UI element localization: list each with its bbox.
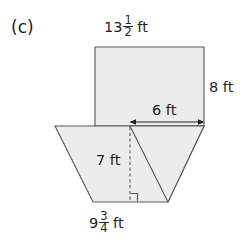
fraction-3-4: 3 4: [99, 211, 108, 236]
geometry-figure: (c) 13 1 2 ft 8 ft 6 ft 7 ft 9 3 4 ft: [0, 0, 247, 248]
mixed-number-9-and-3-4: 9 3 4 ft: [89, 211, 124, 236]
upper-base-segment-label: 6 ft: [152, 103, 176, 118]
unit-label: ft: [113, 216, 124, 231]
trapezoid-bottom-width-label: 9 3 4 ft: [89, 211, 124, 236]
rectangle-right-height-label: 8 ft: [209, 80, 233, 95]
trapezoid-height-label: 7 ft: [96, 153, 120, 168]
fraction-denominator: 2: [123, 27, 132, 39]
fraction-denominator: 4: [99, 223, 108, 235]
rectangle-top-width-label: 13 1 2 ft: [104, 15, 148, 40]
fraction-1-2: 1 2: [123, 15, 132, 40]
part-label: (c): [11, 17, 34, 37]
mixed-whole-part: 13: [104, 20, 122, 35]
mixed-number-13-and-1-2: 13 1 2 ft: [104, 15, 148, 40]
rectangle-shape: [95, 47, 204, 126]
unit-label: ft: [137, 20, 148, 35]
mixed-whole-part: 9: [89, 216, 98, 231]
